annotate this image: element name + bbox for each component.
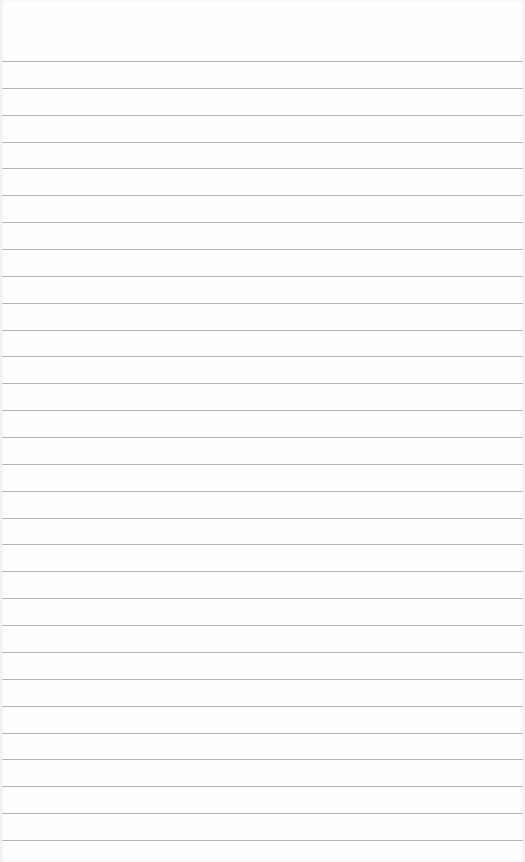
ruled-line xyxy=(2,356,523,357)
ruled-line xyxy=(2,222,523,223)
ruled-line xyxy=(2,437,523,438)
ruled-line xyxy=(2,518,523,519)
ruled-line xyxy=(2,330,523,331)
ruled-line xyxy=(2,142,523,143)
ruled-line xyxy=(2,706,523,707)
ruled-line xyxy=(2,544,523,545)
ruled-line xyxy=(2,813,523,814)
ruled-line xyxy=(2,61,523,62)
ruled-line xyxy=(2,625,523,626)
ruled-line xyxy=(2,759,523,760)
ruled-line xyxy=(2,303,523,304)
ruled-line xyxy=(2,733,523,734)
ruled-line xyxy=(2,840,523,841)
ruled-line xyxy=(2,652,523,653)
ruled-line xyxy=(2,88,523,89)
ruled-line xyxy=(2,786,523,787)
ruled-line xyxy=(2,115,523,116)
ruled-line xyxy=(2,464,523,465)
lined-paper xyxy=(0,0,525,862)
ruled-line xyxy=(2,491,523,492)
ruled-line xyxy=(2,276,523,277)
ruled-line xyxy=(2,168,523,169)
ruled-line xyxy=(2,679,523,680)
ruled-line xyxy=(2,383,523,384)
ruled-line xyxy=(2,598,523,599)
ruled-line xyxy=(2,195,523,196)
ruled-line xyxy=(2,410,523,411)
ruled-line xyxy=(2,571,523,572)
ruled-line xyxy=(2,249,523,250)
